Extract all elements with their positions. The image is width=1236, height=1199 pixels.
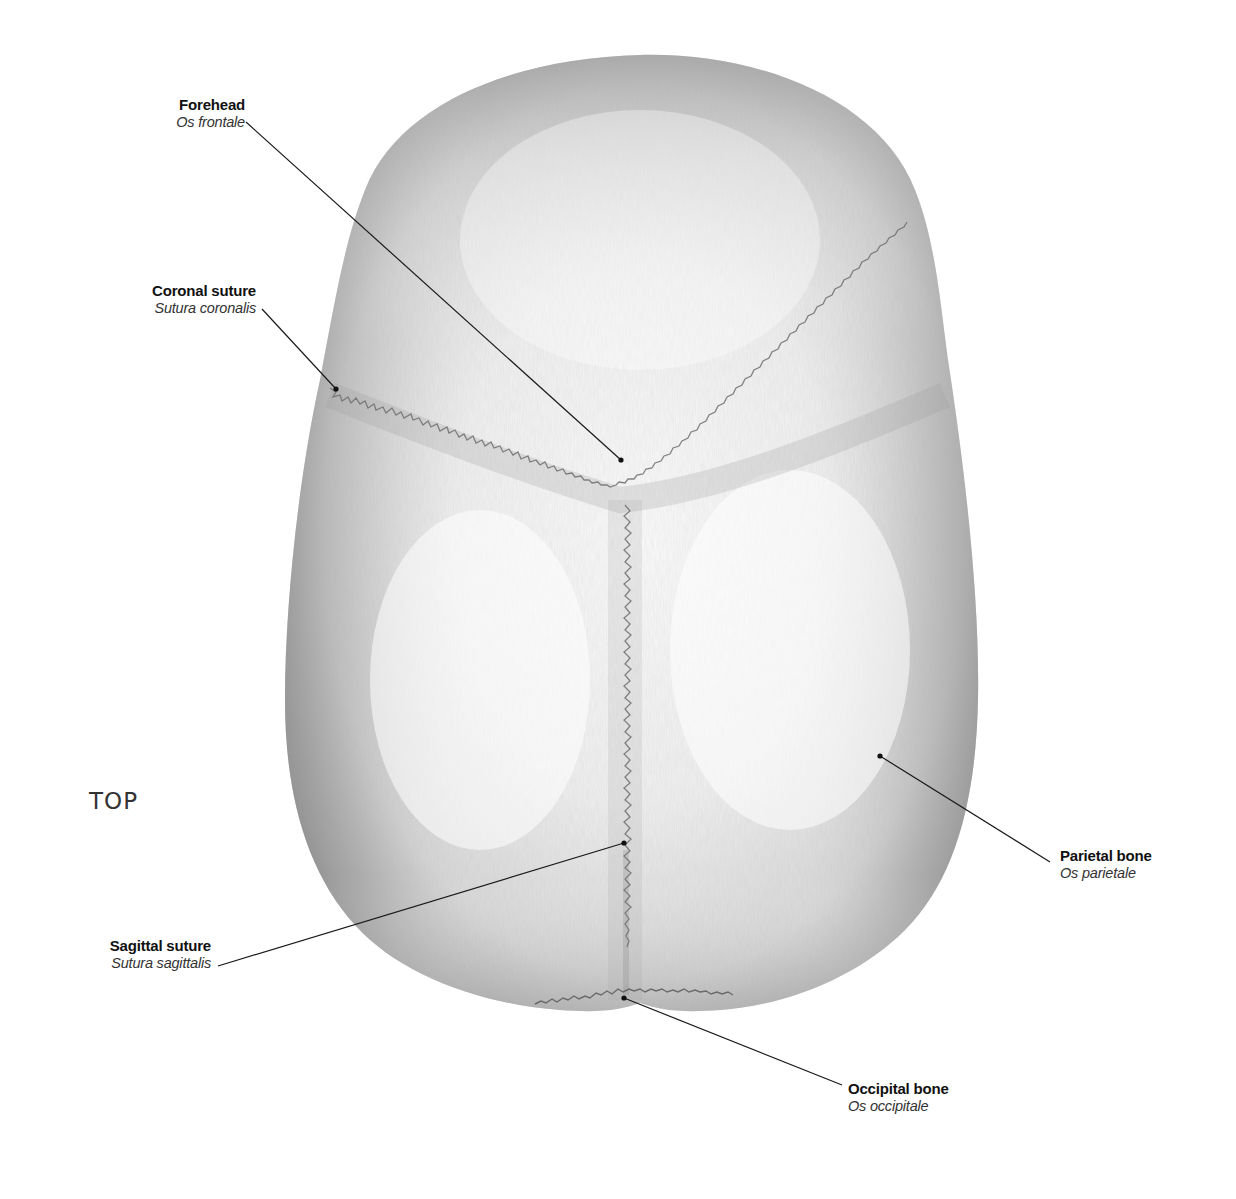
label-occipital-bone-latin: Os occipitale (848, 1098, 1028, 1115)
occipital-bone-leader-line (624, 998, 842, 1085)
sagittal-suture-marker-dot (621, 840, 626, 845)
coronal-suture-marker-dot (333, 386, 338, 391)
label-forehead-common: Forehead (100, 96, 245, 114)
label-coronal-suture: Coronal suture Sutura coronalis (100, 282, 256, 317)
label-parietal-bone-common: Parietal bone (1060, 847, 1230, 865)
label-occipital-bone: Occipital bone Os occipitale (848, 1080, 1028, 1115)
label-sagittal-suture-common: Sagittal suture (60, 937, 211, 955)
label-sagittal-suture: Sagittal suture Sutura sagittalis (60, 937, 211, 972)
parietal-bone-marker-dot (877, 753, 882, 758)
label-coronal-suture-common: Coronal suture (100, 282, 256, 300)
occipital-bone-marker-dot (621, 995, 626, 1000)
label-parietal-bone-latin: Os parietale (1060, 865, 1230, 882)
label-coronal-suture-latin: Sutura coronalis (100, 300, 256, 317)
view-orientation-label: TOP (89, 788, 138, 814)
label-sagittal-suture-latin: Sutura sagittalis (60, 955, 211, 972)
skull-top-view-diagram (0, 0, 1236, 1199)
forehead-marker-dot (618, 457, 623, 462)
skull-illustration (280, 50, 985, 1020)
label-forehead: Forehead Os frontale (100, 96, 245, 131)
label-parietal-bone: Parietal bone Os parietale (1060, 847, 1230, 882)
coronal-suture-leader-line (262, 309, 336, 389)
label-forehead-latin: Os frontale (100, 114, 245, 131)
label-occipital-bone-common: Occipital bone (848, 1080, 1028, 1098)
